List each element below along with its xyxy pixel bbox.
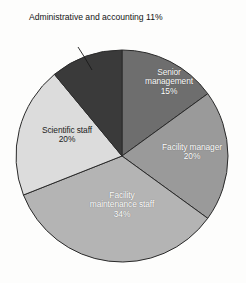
pie-chart: Senior management 15% Facility manager 2…: [0, 0, 246, 283]
pie-slice-group: [16, 50, 228, 262]
pie-chart-canvas: [0, 0, 246, 283]
